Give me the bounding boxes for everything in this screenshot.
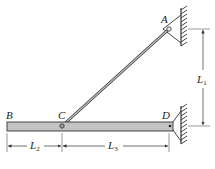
rod-ac: [62, 29, 169, 126]
svg-text:L1: L1: [196, 73, 207, 87]
label-c: C: [58, 109, 66, 121]
label-b: B: [6, 109, 13, 121]
dimension-l1: L1: [188, 29, 210, 126]
pin-a: [167, 27, 171, 31]
wall-support-a: [163, 6, 187, 46]
svg-text:L2: L2: [29, 139, 40, 153]
beam-cable-diagram: A B C D L1 L2 L3: [0, 0, 215, 169]
pin-c: [60, 124, 64, 128]
label-a: A: [160, 13, 168, 25]
label-d: D: [161, 109, 170, 121]
dimension-l2: L2: [8, 139, 61, 153]
svg-text:L3: L3: [107, 139, 118, 153]
pin-d: [169, 125, 172, 128]
bar-bd: [7, 122, 173, 131]
dimension-l3: L3: [63, 139, 168, 153]
